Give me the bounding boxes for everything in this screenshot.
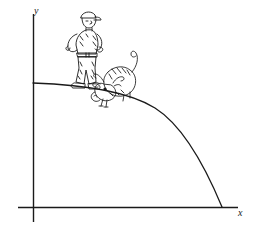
man-shirt-hatch [80,34,96,46]
bull-hoof-front [99,106,108,107]
bull-horn-right [113,77,124,83]
axes-group [18,14,238,222]
man-cap-brim [94,17,101,20]
x-axis-label: x [238,208,242,218]
bull-ear-right [114,85,121,87]
man-neck [86,28,92,31]
man-face-detail [86,21,92,24]
man-cap [81,12,96,18]
bull-figure [91,51,137,107]
y-axis-label: y [34,6,38,16]
bull-nostril [94,95,97,97]
man-head [82,18,96,28]
curve-path [33,83,222,207]
bull-eye [103,87,106,90]
man-arm-left [68,34,77,52]
figure-canvas: y x [0,0,259,229]
man-hand-right [97,47,103,52]
bull-back-hatch [109,68,130,79]
man-figure [66,12,103,89]
bull-tail [131,51,137,72]
man-trousers [76,57,96,84]
man-torso [76,30,98,54]
illustration-svg [0,0,259,229]
bull-belly-hatch [110,90,124,96]
